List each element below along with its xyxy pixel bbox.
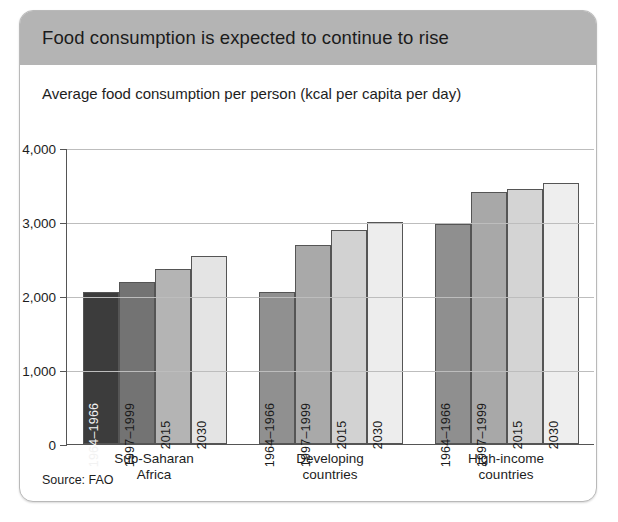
- bar: 1997–1999: [471, 192, 507, 444]
- y-axis-tick: [60, 445, 67, 446]
- bar: 2015: [507, 189, 543, 444]
- page-title: Food consumption is expected to continue…: [42, 27, 449, 49]
- bar: 1964–1966: [83, 292, 119, 444]
- bar-label: 2030: [547, 421, 561, 450]
- category-label: Developingcountries: [258, 451, 402, 483]
- category-label-line1: Sub-Saharan: [82, 451, 226, 467]
- bar: 2015: [331, 230, 367, 444]
- bar: 1964–1966: [435, 224, 471, 444]
- source-note: Source: FAO: [42, 473, 114, 487]
- y-axis-label: 0: [48, 438, 56, 453]
- bar: 1964–1966: [259, 292, 295, 444]
- category-label-line1: High-income: [434, 451, 578, 467]
- gridline: [67, 371, 594, 372]
- bar-label: 2015: [159, 421, 173, 450]
- category-label: High-incomecountries: [434, 451, 578, 483]
- y-axis-label: 4,000: [22, 142, 56, 157]
- y-axis-label: 3,000: [22, 216, 56, 231]
- bar: 2030: [543, 183, 579, 444]
- bar-label: 2015: [511, 421, 525, 450]
- chart-card: Food consumption is expected to continue…: [19, 10, 597, 502]
- bar-chart: 1964–19661997–1999201520301964–19661997–…: [20, 65, 597, 502]
- y-axis-tick: [60, 371, 67, 372]
- bar-label: 2015: [335, 421, 349, 450]
- y-axis-label: 2,000: [22, 290, 56, 305]
- y-axis-tick: [60, 223, 67, 224]
- bar: 1997–1999: [119, 282, 155, 444]
- y-axis-tick: [60, 149, 67, 150]
- category-label-line2: countries: [258, 467, 402, 483]
- card-body: Average food consumption per person (kca…: [20, 65, 596, 502]
- bar: 2030: [367, 222, 403, 444]
- y-axis-tick: [60, 297, 67, 298]
- category-label-line2: countries: [434, 467, 578, 483]
- bar: 2015: [155, 269, 191, 444]
- gridline: [67, 223, 594, 224]
- gridline: [67, 297, 594, 298]
- category-label-line1: Developing: [258, 451, 402, 467]
- bar-label: 2030: [195, 421, 209, 450]
- gridline: [67, 149, 594, 150]
- bar: 1997–1999: [295, 245, 331, 444]
- bar: 2030: [191, 256, 227, 444]
- card-header: Food consumption is expected to continue…: [20, 11, 596, 65]
- plot-area: 1964–19661997–1999201520301964–19661997–…: [66, 149, 594, 445]
- y-axis-label: 1,000: [22, 364, 56, 379]
- bar-label: 2030: [371, 421, 385, 450]
